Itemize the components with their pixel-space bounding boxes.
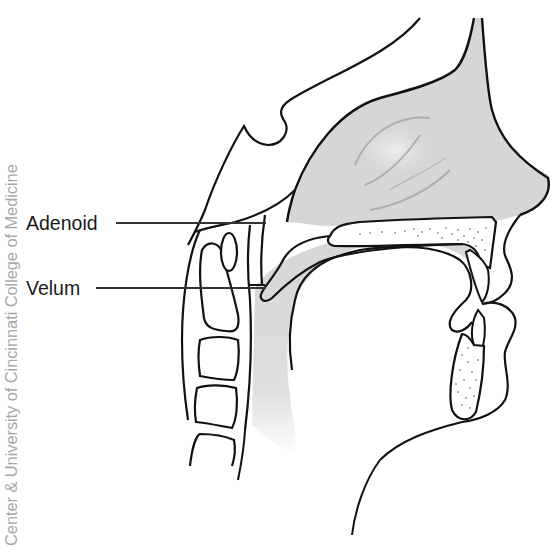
label-velum: Velum (26, 277, 80, 299)
copyright-watermark: Center & University of Cincinnati Colleg… (0, 0, 22, 552)
mandible (450, 334, 484, 419)
label-adenoid: Adenoid (26, 212, 98, 234)
leader-line-adenoid (116, 222, 266, 224)
vertebra-c5 (190, 434, 235, 466)
c1-anterior-arch (221, 233, 237, 271)
chin-neck-line (352, 422, 462, 535)
sagittal-head-illustration (0, 0, 558, 552)
pharynx-airway (252, 234, 482, 455)
vertebra-c3 (199, 337, 239, 380)
adenoid-edge (261, 215, 265, 285)
pharyngeal-wall (245, 225, 251, 430)
anatomy-figure (0, 0, 558, 552)
nasal-cavity (287, 18, 550, 226)
vertebra-c4 (195, 385, 237, 428)
leader-line-velum (96, 287, 266, 289)
